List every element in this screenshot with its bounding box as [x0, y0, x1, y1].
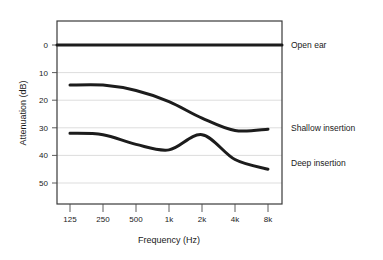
- x-tick-label-500: 500: [129, 215, 143, 224]
- x-tick-label-1k: 1k: [165, 215, 174, 224]
- x-tick-label-2k: 2k: [198, 215, 207, 224]
- y-tick-label-20: 20: [39, 96, 48, 105]
- x-tick-label-125: 125: [63, 215, 77, 224]
- series-label-open-ear: Open ear: [291, 40, 327, 50]
- x-axis-title: Frequency (Hz): [138, 235, 200, 245]
- y-tick-label-10: 10: [39, 69, 48, 78]
- x-tick-label-8k: 8k: [264, 215, 273, 224]
- y-axis-title: Attenuation (dB): [18, 80, 28, 145]
- y-tick-label-50: 50: [39, 179, 48, 188]
- y-tick-label-40: 40: [39, 151, 48, 160]
- x-tick-label-250: 250: [96, 215, 110, 224]
- x-tick-label-4k: 4k: [231, 215, 240, 224]
- y-tick-label-30: 30: [39, 124, 48, 133]
- y-tick-label-0: 0: [44, 41, 49, 50]
- attenuation-chart: 0 10 20 30 40 50 125 250 500 1k 2k 4k 8k…: [0, 0, 383, 260]
- series-label-deep-insertion: Deep insertion: [291, 158, 346, 168]
- series-label-shallow-insertion: Shallow insertion: [291, 123, 356, 133]
